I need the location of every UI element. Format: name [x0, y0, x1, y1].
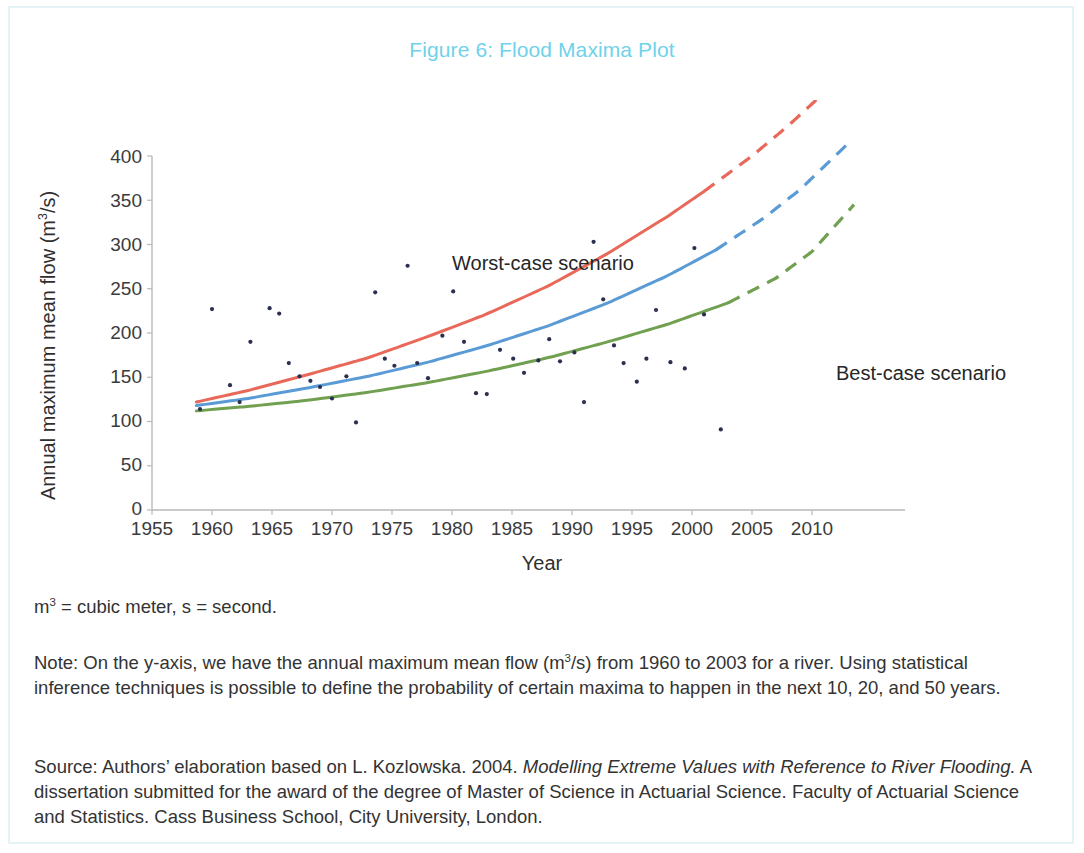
units-note-rest: = cubic meter, s = second. — [56, 596, 277, 617]
source-prefix: Source: Authors’ elaboration based on L.… — [34, 756, 523, 777]
x-axis-ticks — [152, 510, 812, 515]
figure-note-part1: Note: On the y-axis, we have the annual … — [34, 652, 565, 673]
annotation-worst-case: Worst-case scenario — [452, 252, 634, 275]
flood-maxima-chart: Annual maximum mean flow (m3/s) 400 350 … — [0, 100, 1084, 590]
annotation-best-case: Best-case scenario — [836, 362, 1006, 385]
figure-note: Note: On the y-axis, we have the annual … — [34, 650, 1048, 700]
figure-source: Source: Authors’ elaboration based on L.… — [34, 754, 1048, 829]
units-note: m3 = cubic meter, s = second. — [34, 594, 1048, 619]
units-note-prefix: m — [34, 596, 49, 617]
page-title: Figure 6: Flood Maxima Plot — [0, 38, 1084, 62]
x-axis-title: Year — [0, 552, 1084, 575]
source-title: Modelling Extreme Values with Reference … — [523, 756, 1016, 777]
y-axis-ticks — [147, 156, 152, 510]
plot-canvas — [0, 100, 1084, 570]
